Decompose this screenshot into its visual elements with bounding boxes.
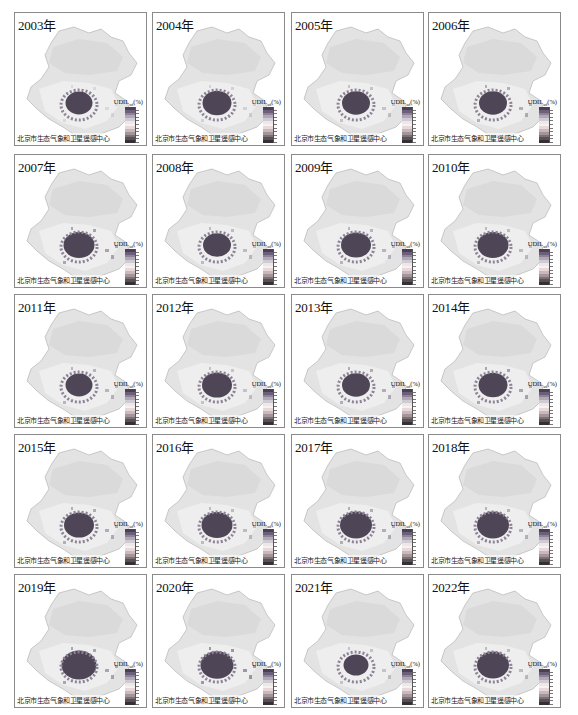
color-legend xyxy=(402,389,412,425)
legend-swatch xyxy=(539,562,549,565)
legend-title: UDILud(%) xyxy=(528,98,557,107)
color-legend xyxy=(402,249,412,285)
source-caption: 北京市生态气象和卫星遥感中心 xyxy=(294,275,386,285)
panel-year: 2004年 xyxy=(156,15,194,34)
legend-ticks xyxy=(549,669,556,705)
source-caption: 北京市生态气象和卫星遥感中心 xyxy=(17,695,109,705)
legend-swatch xyxy=(125,282,135,285)
legend-tick xyxy=(274,705,277,708)
legend-title: UDILud(%) xyxy=(252,660,281,669)
legend-swatch xyxy=(539,702,549,705)
color-legend xyxy=(263,389,273,425)
source-caption: 北京市生态气象和卫星遥感中心 xyxy=(431,275,523,285)
legend-ticks xyxy=(135,107,142,143)
source-caption: 北京市生态气象和卫星遥感中心 xyxy=(431,695,523,705)
color-legend xyxy=(402,529,412,565)
source-caption: 北京市生态气象和卫星遥感中心 xyxy=(155,275,247,285)
legend-tick xyxy=(274,143,277,146)
map-panel-2014: 2014年 UDILud(%) 北京市生态气象和卫星遥感中心 xyxy=(428,294,561,428)
legend-tick xyxy=(413,143,416,146)
panel-year: 2022年 xyxy=(432,577,470,596)
legend-title: UDILud(%) xyxy=(114,240,143,249)
map-panel-2021: 2021年 UDILud(%) 北京市生态气象和卫星遥感中心 xyxy=(291,574,424,708)
color-legend xyxy=(125,249,135,285)
color-legend xyxy=(539,529,549,565)
legend-swatch xyxy=(125,140,135,143)
panel-year: 2021年 xyxy=(295,577,333,596)
legend-tick xyxy=(274,285,277,288)
panel-year: 2019年 xyxy=(18,577,56,596)
figure-grid: 2003年 UDILud(%) 北京市生态气象和卫星遥感中心 2004年 UDI… xyxy=(14,12,564,707)
source-caption: 北京市生态气象和卫星遥感中心 xyxy=(155,555,247,565)
legend-tick xyxy=(136,565,139,568)
panel-year: 2008年 xyxy=(156,157,194,176)
source-caption: 北京市生态气象和卫星遥感中心 xyxy=(17,275,109,285)
legend-ticks xyxy=(549,249,556,285)
legend-swatch xyxy=(402,140,412,143)
legend-title: UDILud(%) xyxy=(528,520,557,529)
map-panel-2007: 2007年 UDILud(%) 北京市生态气象和卫星遥感中心 xyxy=(14,154,147,288)
panel-year: 2020年 xyxy=(156,577,194,596)
panel-year: 2018年 xyxy=(432,437,470,456)
panel-year: 2016年 xyxy=(156,437,194,456)
map-panel-2006: 2006年 UDILud(%) 北京市生态气象和卫星遥感中心 xyxy=(428,12,561,146)
legend-title: UDILud(%) xyxy=(391,520,420,529)
panel-year: 2014年 xyxy=(432,297,470,316)
legend-title: UDILud(%) xyxy=(114,98,143,107)
source-caption: 北京市生态气象和卫星遥感中心 xyxy=(431,133,523,143)
source-caption: 北京市生态气象和卫星遥感中心 xyxy=(155,133,247,143)
map-panel-2016: 2016年 UDILud(%) 北京市生态气象和卫星遥感中心 xyxy=(152,434,285,568)
legend-swatch xyxy=(402,422,412,425)
source-caption: 北京市生态气象和卫星遥感中心 xyxy=(17,133,109,143)
color-legend xyxy=(402,107,412,143)
source-caption: 北京市生态气象和卫星遥感中心 xyxy=(17,415,109,425)
color-legend xyxy=(539,249,549,285)
legend-ticks xyxy=(273,389,280,425)
legend-title: UDILud(%) xyxy=(252,240,281,249)
panel-year: 2005年 xyxy=(295,15,333,34)
panel-year: 2007年 xyxy=(18,157,56,176)
legend-ticks xyxy=(135,249,142,285)
color-legend xyxy=(263,529,273,565)
legend-title: UDILud(%) xyxy=(391,98,420,107)
legend-title: UDILud(%) xyxy=(391,380,420,389)
panel-year: 2015年 xyxy=(18,437,56,456)
legend-tick xyxy=(550,285,553,288)
legend-title: UDILud(%) xyxy=(114,660,143,669)
legend-tick xyxy=(413,425,416,428)
source-caption: 北京市生态气象和卫星遥感中心 xyxy=(294,415,386,425)
panel-year: 2009年 xyxy=(295,157,333,176)
legend-tick xyxy=(413,565,416,568)
legend-swatch xyxy=(125,562,135,565)
source-caption: 北京市生态气象和卫星遥感中心 xyxy=(294,695,386,705)
panel-year: 2011年 xyxy=(18,297,56,316)
map-panel-2022: 2022年 UDILud(%) 北京市生态气象和卫星遥感中心 xyxy=(428,574,561,708)
legend-swatch xyxy=(402,282,412,285)
legend-tick xyxy=(274,565,277,568)
legend-title: UDILud(%) xyxy=(528,380,557,389)
map-panel-2010: 2010年 UDILud(%) 北京市生态气象和卫星遥感中心 xyxy=(428,154,561,288)
legend-ticks xyxy=(273,107,280,143)
map-panel-2011: 2011年 UDILud(%) 北京市生态气象和卫星遥感中心 xyxy=(14,294,147,428)
color-legend xyxy=(263,669,273,705)
legend-ticks xyxy=(412,529,419,565)
map-panel-2019: 2019年 UDILud(%) 北京市生态气象和卫星遥感中心 xyxy=(14,574,147,708)
color-legend xyxy=(263,249,273,285)
map-panel-2013: 2013年 UDILud(%) 北京市生态气象和卫星遥感中心 xyxy=(291,294,424,428)
legend-title: UDILud(%) xyxy=(252,520,281,529)
legend-tick xyxy=(413,285,416,288)
legend-title: UDILud(%) xyxy=(252,380,281,389)
legend-title: UDILud(%) xyxy=(114,380,143,389)
legend-ticks xyxy=(412,389,419,425)
legend-tick xyxy=(413,705,416,708)
legend-ticks xyxy=(412,669,419,705)
legend-ticks xyxy=(135,389,142,425)
legend-ticks xyxy=(549,107,556,143)
source-caption: 北京市生态气象和卫星遥感中心 xyxy=(431,555,523,565)
legend-title: UDILud(%) xyxy=(391,240,420,249)
map-panel-2015: 2015年 UDILud(%) 北京市生态气象和卫星遥感中心 xyxy=(14,434,147,568)
color-legend xyxy=(125,389,135,425)
source-caption: 北京市生态气象和卫星遥感中心 xyxy=(155,695,247,705)
source-caption: 北京市生态气象和卫星遥感中心 xyxy=(294,555,386,565)
legend-title: UDILud(%) xyxy=(528,240,557,249)
